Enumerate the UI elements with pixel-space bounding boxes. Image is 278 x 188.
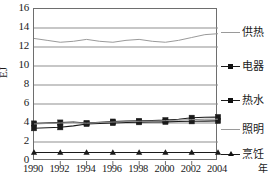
- data-point-marker: [163, 119, 168, 124]
- data-point-marker: [31, 126, 36, 131]
- data-point-marker: [137, 120, 142, 125]
- legend-swatch: [221, 149, 240, 161]
- legend-label: 供热: [242, 27, 264, 39]
- line-chart: EJ 1614121086420 19901992199419961998200…: [0, 0, 278, 188]
- legend-item: 热水: [221, 94, 264, 108]
- series-4: [31, 149, 221, 155]
- legend-label: 电器: [242, 61, 264, 73]
- y-tick-label: 16: [3, 2, 29, 13]
- series-layer: [34, 9, 218, 161]
- legend-item: 供热: [221, 26, 264, 40]
- legend-swatch: [221, 95, 240, 107]
- x-axis-title: 年: [258, 163, 268, 174]
- series-line: [34, 34, 218, 43]
- x-tick-label: 2004: [197, 163, 237, 174]
- legend-item: 烹饪: [221, 148, 264, 162]
- data-point-marker: [58, 125, 63, 130]
- y-tick-label: 12: [3, 40, 29, 51]
- legend-label: 热水: [242, 95, 264, 107]
- plot-area: [33, 8, 217, 160]
- y-tick-label: 4: [3, 116, 29, 127]
- legend-item: 照明: [221, 123, 264, 137]
- chart-legend: 供热电器热水照明烹饪: [221, 8, 278, 160]
- legend-swatch: [221, 124, 240, 136]
- legend-item: 电器: [221, 60, 264, 74]
- legend-square-marker-icon: [228, 98, 233, 103]
- legend-label: 照明: [242, 124, 264, 136]
- y-tick-label: 8: [3, 78, 29, 89]
- y-tick-label: 2: [3, 135, 29, 146]
- legend-label: 烹饪: [242, 149, 264, 161]
- data-point-marker: [110, 120, 115, 125]
- y-tick-label: 14: [3, 21, 29, 32]
- legend-line-icon: [221, 129, 240, 130]
- legend-swatch: [221, 61, 240, 73]
- legend-swatch: [221, 27, 240, 39]
- y-tick-label: 10: [3, 59, 29, 70]
- legend-square-marker-icon: [228, 64, 233, 69]
- series-0: [34, 34, 218, 43]
- legend-line-icon: [221, 32, 240, 33]
- y-tick-label: 6: [3, 97, 29, 108]
- data-point-marker: [84, 121, 89, 126]
- legend-triangle-marker-icon: [228, 151, 234, 156]
